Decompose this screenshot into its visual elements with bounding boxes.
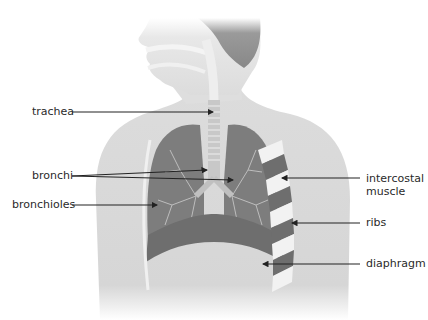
label-bronchi: bronchi bbox=[32, 169, 73, 182]
label-bronchioles: bronchioles bbox=[12, 198, 75, 211]
label-intercostal-line2: muscle bbox=[366, 185, 405, 198]
label-trachea: trachea bbox=[32, 105, 74, 118]
torso bbox=[96, 88, 350, 320]
label-ribs: ribs bbox=[366, 216, 386, 229]
label-intercostal-muscle: intercostal muscle bbox=[366, 172, 424, 198]
label-intercostal-line1: intercostal bbox=[366, 172, 424, 185]
label-diaphragm: diaphragm bbox=[366, 257, 426, 270]
respiratory-diagram bbox=[0, 0, 428, 320]
